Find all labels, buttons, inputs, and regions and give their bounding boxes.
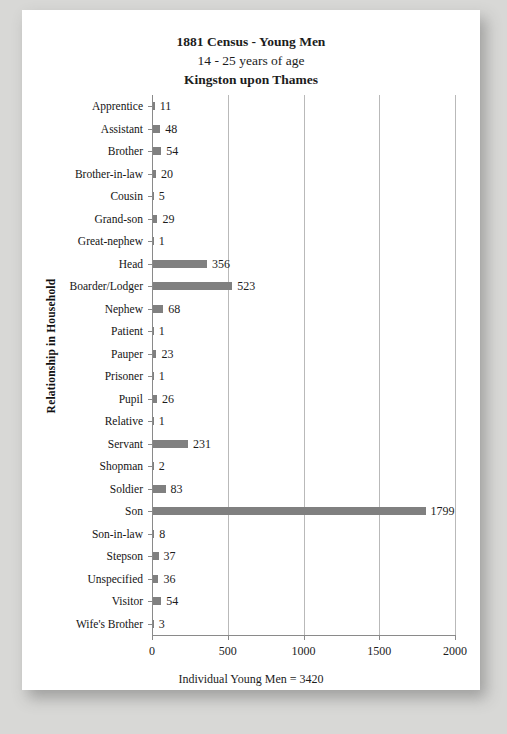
bar-row: Son-in-law8 (152, 523, 455, 546)
category-label: Visitor (13, 590, 143, 613)
category-label: Nephew (13, 298, 143, 321)
x-tick-label: 2000 (425, 644, 485, 659)
bar (153, 507, 426, 515)
y-tick-mark (148, 421, 152, 422)
bar-value-label: 1 (159, 320, 165, 343)
page-footer-text (28, 712, 488, 722)
bar-row: Relative1 (152, 410, 455, 433)
category-label: Servant (13, 433, 143, 456)
bar-row: Head356 (152, 253, 455, 276)
bar (153, 192, 154, 200)
bar-value-label: 1 (159, 365, 165, 388)
category-label: Patient (13, 320, 143, 343)
bar-value-label: 54 (166, 140, 178, 163)
category-label: Great-nephew (13, 230, 143, 253)
chart-title-block: 1881 Census - Young Men 14 - 25 years of… (22, 32, 480, 89)
chart-title-line-3: Kingston upon Thames (22, 70, 480, 89)
category-label: Assistant (13, 118, 143, 141)
category-label: Apprentice (13, 95, 143, 118)
bar (153, 620, 154, 628)
bar (153, 395, 157, 403)
x-tick-mark (379, 635, 380, 640)
y-tick-mark (148, 286, 152, 287)
bar (153, 237, 154, 245)
bar-value-label: 36 (163, 568, 175, 591)
y-tick-mark (148, 511, 152, 512)
bar (153, 462, 154, 470)
bar-row: Pupil26 (152, 388, 455, 411)
bar-value-label: 8 (159, 523, 165, 546)
category-label: Pauper (13, 343, 143, 366)
bar (153, 102, 155, 110)
bar-row: Boarder/Lodger523 (152, 275, 455, 298)
y-tick-mark (148, 354, 152, 355)
chart-title-line-2: 14 - 25 years of age (22, 51, 480, 70)
bar-value-label: 20 (161, 163, 173, 186)
x-tick-label: 0 (122, 644, 182, 659)
bar-value-label: 231 (193, 433, 211, 456)
x-tick-label: 500 (198, 644, 258, 659)
y-tick-mark (148, 466, 152, 467)
category-label: Son (13, 500, 143, 523)
bar-value-label: 48 (165, 118, 177, 141)
category-label: Prisoner (13, 365, 143, 388)
category-label: Unspecified (13, 568, 143, 591)
chart-plot-area: 0500100015002000 Apprentice11Assistant48… (152, 95, 455, 635)
bar-value-label: 23 (161, 343, 173, 366)
category-label: Stepson (13, 545, 143, 568)
bar (153, 597, 161, 605)
category-label: Son-in-law (13, 523, 143, 546)
bar-row: Pauper23 (152, 343, 455, 366)
bar-row: Prisoner1 (152, 365, 455, 388)
x-tick-label: 1000 (274, 644, 334, 659)
bar-value-label: 37 (164, 545, 176, 568)
bar-value-label: 3 (159, 613, 165, 636)
category-label: Relative (13, 410, 143, 433)
bar-value-label: 83 (171, 478, 183, 501)
bar-row: Great-nephew1 (152, 230, 455, 253)
x-tick-label: 1500 (349, 644, 409, 659)
bar (153, 170, 156, 178)
bar (153, 552, 159, 560)
category-label: Shopman (13, 455, 143, 478)
gridline (455, 95, 456, 635)
bar-row: Apprentice11 (152, 95, 455, 118)
x-tick-mark (304, 635, 305, 640)
bar (153, 260, 207, 268)
bar-row: Soldier83 (152, 478, 455, 501)
x-tick-mark (228, 635, 229, 640)
bar (153, 372, 154, 380)
chart-title-line-1: 1881 Census - Young Men (22, 32, 480, 51)
bar (153, 575, 158, 583)
bar-value-label: 356 (212, 253, 230, 276)
bar-value-label: 26 (162, 388, 174, 411)
bar-value-label: 1 (159, 230, 165, 253)
bar-row: Assistant48 (152, 118, 455, 141)
bar-value-label: 11 (160, 95, 172, 118)
y-tick-mark (148, 624, 152, 625)
bar-row: Grand-son29 (152, 208, 455, 231)
bar-row: Brother-in-law20 (152, 163, 455, 186)
category-label: Cousin (13, 185, 143, 208)
y-tick-mark (148, 331, 152, 332)
category-label: Brother (13, 140, 143, 163)
bar (153, 327, 154, 335)
bar (153, 417, 154, 425)
y-tick-mark (148, 444, 152, 445)
y-tick-mark (148, 219, 152, 220)
bar-row: Servant231 (152, 433, 455, 456)
bar-row: Unspecified36 (152, 568, 455, 591)
y-tick-mark (148, 601, 152, 602)
bar (153, 282, 232, 290)
bar-row: Brother54 (152, 140, 455, 163)
bar (153, 305, 163, 313)
bar-value-label: 2 (159, 455, 165, 478)
bar (153, 350, 156, 358)
y-tick-mark (148, 264, 152, 265)
bar-row: Nephew68 (152, 298, 455, 321)
y-tick-mark (148, 534, 152, 535)
bar (153, 215, 157, 223)
bar (153, 485, 166, 493)
category-label: Soldier (13, 478, 143, 501)
bar-value-label: 29 (162, 208, 174, 231)
